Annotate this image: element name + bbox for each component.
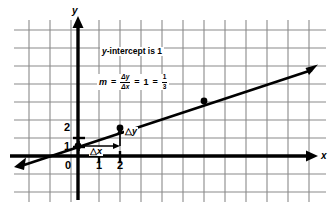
x-tick-label-2: 2: [117, 160, 123, 171]
delta-y-variable: y: [132, 126, 137, 136]
point-y-intercept: [75, 143, 82, 150]
y-intercept-note-text: -intercept is 1: [107, 46, 162, 56]
equals-sign-1: =: [111, 78, 116, 87]
slope-fraction-denominator: 3: [162, 84, 168, 91]
equals-sign-2: =: [134, 78, 139, 87]
slope-symbol: m: [99, 78, 107, 87]
point-third: [201, 98, 208, 105]
point-second: [117, 125, 124, 132]
slope-fraction: 1 3: [162, 74, 168, 90]
delta-fraction: Δy Δx: [120, 74, 130, 90]
delta-y-numerator: Δy: [120, 74, 130, 81]
x-tick-label-1: 1: [96, 160, 102, 171]
delta-y-label: △y: [124, 127, 138, 136]
x-axis-label: x: [321, 151, 327, 161]
delta-x-triangle: △: [90, 146, 97, 156]
delta-x-variable: x: [97, 146, 102, 156]
delta-x-denominator: Δx: [120, 84, 130, 91]
graph-figure: y x 0 1 2 1 2 y-intercept is 1 m = Δy Δx…: [0, 0, 332, 212]
y-axis-label: y: [72, 6, 78, 16]
y-tick-label-1: 1: [64, 141, 70, 152]
slope-fraction-numerator: 1: [162, 74, 168, 81]
delta-x-label: △x: [89, 147, 103, 156]
y-tick-label-2: 2: [64, 122, 70, 133]
delta-y-triangle: △: [125, 126, 132, 136]
coordinate-plot: [0, 0, 332, 212]
slope-equation: m = Δy Δx = 1 = 1 3: [97, 74, 169, 90]
equals-sign-3: =: [153, 78, 158, 87]
origin-label: 0: [65, 160, 71, 171]
y-intercept-note: y-intercept is 1: [100, 47, 164, 56]
slope-value-one: 1: [144, 78, 149, 87]
